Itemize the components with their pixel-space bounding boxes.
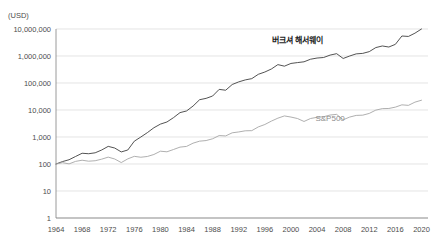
x-axis-tick-label: 2020 (413, 225, 430, 234)
unit-label: (USD) (8, 11, 29, 20)
series-label-berkshire: 버크셔 해서웨이 (272, 35, 323, 45)
y-axis-tick-labels: 10,000,0001,000,000100,00010,0001,000100… (13, 25, 51, 223)
x-axis-tick-label: 2000 (283, 225, 300, 234)
series-annotations-group: 버크셔 해서웨이S&P500 (272, 35, 345, 123)
x-axis-tick-label: 2016 (387, 225, 404, 234)
data-series-group (56, 29, 421, 164)
x-axis-tick-label: 1972 (100, 225, 117, 234)
y-axis-tick-label: 100,000 (24, 79, 51, 88)
series-line-berkshire (56, 29, 421, 164)
x-axis-tick-label: 2008 (335, 225, 352, 234)
x-axis-tick-label: 1996 (256, 225, 273, 234)
axis-lines-group (56, 29, 428, 218)
x-axis-tick-labels: 1964196819721976198019841988199219962000… (48, 225, 430, 234)
x-axis-tick-label: 1976 (126, 225, 143, 234)
y-axis-tick-label: 10 (43, 187, 51, 196)
x-axis-tick-label: 1992 (230, 225, 247, 234)
chart-container: 10,000,0001,000,000100,00010,0001,000100… (0, 0, 439, 251)
series-label-sp500: S&P500 (315, 114, 345, 123)
x-axis-tick-label: 1968 (74, 225, 91, 234)
y-axis-tick-label: 1,000,000 (18, 52, 51, 61)
x-axis-tick-label: 2012 (361, 225, 378, 234)
y-axis-tick-label: 1,000 (32, 133, 51, 142)
log-scale-line-chart: 10,000,0001,000,000100,00010,0001,000100… (0, 0, 439, 251)
x-axis-tick-label: 1980 (152, 225, 169, 234)
x-axis-tick-label: 1984 (178, 225, 195, 234)
y-axis-tick-label: 1 (47, 214, 51, 223)
y-axis-tick-label: 10,000,000 (13, 25, 51, 34)
x-axis-tick-label: 1964 (48, 225, 65, 234)
x-axis-tick-label: 1988 (204, 225, 221, 234)
y-axis-tick-label: 10,000 (28, 106, 51, 115)
y-axis-tick-label: 100 (38, 160, 51, 169)
gridlines-group (56, 29, 428, 218)
x-axis-tick-label: 2004 (309, 225, 326, 234)
